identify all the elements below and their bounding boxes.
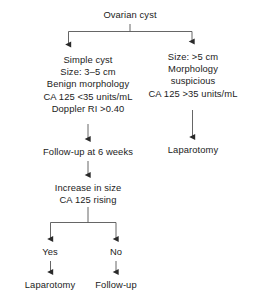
node-suspicious-cyst: Size: >5 cm Morphology suspicious CA 125… bbox=[148, 51, 237, 100]
node-simple-cyst-line-1: Simple cyst bbox=[43, 54, 132, 66]
node-yes-line-1: Yes bbox=[42, 246, 58, 258]
node-laparotomy-right-line-1: Laparotomy bbox=[168, 144, 218, 156]
node-follow-up-bottom: Follow-up bbox=[95, 279, 137, 291]
node-simple-cyst: Simple cyst Size: 3–5 cm Benign morpholo… bbox=[43, 54, 132, 115]
node-suspicious-cyst-line-4: CA 125 >35 units/mL bbox=[148, 88, 237, 100]
node-increase-in-size: Increase in size CA 125 rising bbox=[55, 182, 122, 206]
node-ovarian-cyst-line-1: Ovarian cyst bbox=[103, 9, 156, 21]
node-no: No bbox=[110, 246, 122, 258]
node-simple-cyst-line-5: Doppler RI >0.40 bbox=[43, 103, 132, 115]
node-simple-cyst-line-3: Benign morphology bbox=[43, 78, 132, 90]
node-suspicious-cyst-line-3: suspicious bbox=[148, 75, 237, 87]
node-laparotomy-bottom: Laparotomy bbox=[25, 279, 75, 291]
node-simple-cyst-line-4: CA 125 <35 units/mL bbox=[43, 91, 132, 103]
node-simple-cyst-line-2: Size: 3–5 cm bbox=[43, 66, 132, 78]
node-ovarian-cyst: Ovarian cyst bbox=[103, 9, 156, 21]
node-no-line-1: No bbox=[110, 246, 122, 258]
node-follow-up-bottom-line-1: Follow-up bbox=[95, 279, 137, 291]
node-laparotomy-bottom-line-1: Laparotomy bbox=[25, 279, 75, 291]
node-suspicious-cyst-line-2: Morphology bbox=[148, 63, 237, 75]
node-suspicious-cyst-line-1: Size: >5 cm bbox=[148, 51, 237, 63]
node-increase-in-size-line-2: CA 125 rising bbox=[55, 194, 122, 206]
flowchart-diagram: Ovarian cyst Simple cyst Size: 3–5 cm Be… bbox=[0, 0, 261, 305]
node-follow-up-6-weeks: Follow-up at 6 weeks bbox=[43, 146, 133, 158]
node-yes: Yes bbox=[42, 246, 58, 258]
node-laparotomy-right: Laparotomy bbox=[168, 144, 218, 156]
node-increase-in-size-line-1: Increase in size bbox=[55, 182, 122, 194]
node-follow-up-6-weeks-line-1: Follow-up at 6 weeks bbox=[43, 146, 133, 158]
